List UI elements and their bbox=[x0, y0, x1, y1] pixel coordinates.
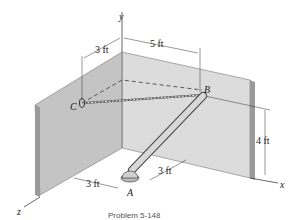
left-wall-edge bbox=[35, 105, 40, 197]
point-c-label: C bbox=[70, 101, 77, 112]
dim-label-4ft: 4 ft bbox=[256, 135, 270, 146]
socket-a-ball bbox=[122, 171, 138, 178]
left-wall bbox=[35, 52, 122, 195]
x-axis-label: x bbox=[279, 179, 285, 190]
z-axis bbox=[24, 197, 40, 207]
z-axis-label: z bbox=[16, 206, 21, 217]
point-b-label: B bbox=[204, 84, 210, 95]
dim-label-3ft-bottom-left: 3 ft bbox=[86, 178, 100, 189]
back-wall-edge bbox=[250, 80, 255, 180]
x-axis bbox=[250, 178, 278, 183]
dim-label-5ft: 5 ft bbox=[150, 38, 164, 49]
point-a-label: A bbox=[126, 187, 134, 198]
y-axis-label: y bbox=[118, 11, 124, 22]
diagram-canvas: y x z A B C 3 ft 5 ft 4 ft 3 ft 3 ft bbox=[0, 0, 294, 220]
dim-label-3ft-top: 3 ft bbox=[95, 44, 109, 55]
dim-label-3ft-bottom-right: 3 ft bbox=[158, 165, 172, 176]
